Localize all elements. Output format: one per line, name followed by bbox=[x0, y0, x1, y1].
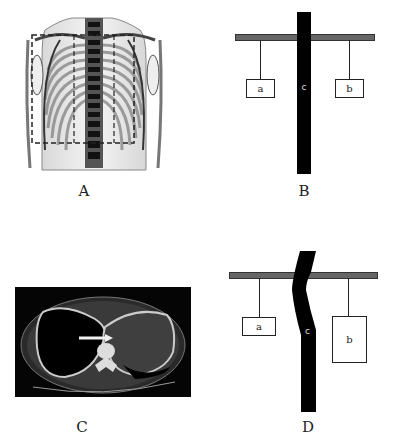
weight-a-d: a bbox=[242, 317, 276, 336]
balance-beam bbox=[235, 34, 375, 41]
mediastinum-column: c bbox=[297, 12, 311, 174]
balance-beam-d bbox=[229, 272, 378, 279]
chest-skeleton-illustration bbox=[0, 0, 196, 224]
weight-b-d: b bbox=[332, 316, 367, 363]
panel-c bbox=[15, 287, 191, 397]
column-label: c bbox=[302, 82, 307, 92]
string-left-d bbox=[259, 278, 260, 317]
panel-label-a: A bbox=[74, 182, 94, 200]
panel-label-d: D bbox=[298, 418, 318, 436]
panel-a: A bbox=[0, 0, 196, 224]
panel-label-c: C bbox=[72, 418, 92, 436]
ct-scan-image bbox=[15, 287, 191, 397]
string-right-d bbox=[348, 278, 349, 316]
string-left bbox=[260, 40, 261, 79]
weight-b: b bbox=[335, 79, 364, 98]
column-label-d: c bbox=[305, 326, 310, 336]
weight-a: a bbox=[246, 79, 275, 98]
panel-label-b: B bbox=[294, 182, 314, 200]
string-right bbox=[349, 40, 350, 79]
